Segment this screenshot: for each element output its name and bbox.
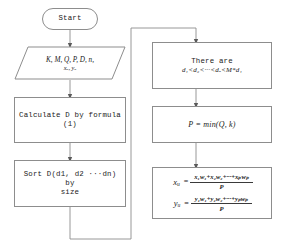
node-inputs-label-line1: K, M, Q, P, D, n, bbox=[46, 56, 94, 64]
node-inputs[interactable]: K, M, Q, P, D, n, xᵤ, yᵤ bbox=[14, 46, 126, 80]
node-sort-d-label-line1: Sort D(d1, d2 ···dn) by bbox=[15, 170, 125, 189]
centroid-formula-row-y: yu = y₁w₁+y₂w₂+···+yₚwₚ P bbox=[174, 195, 251, 213]
node-there-are[interactable]: There are d₁<d₂<···<dₒ<M*d₁ bbox=[152, 42, 272, 89]
node-sort-d-label-line2: size bbox=[58, 188, 83, 197]
centroid-formula-row-x: xu = x₁w₁+x₂w₂+···+xₚwₚ P bbox=[173, 173, 251, 191]
node-inputs-text: K, M, Q, P, D, n, xᵤ, yᵤ bbox=[14, 46, 126, 80]
centroid-y-fraction: y₁w₁+y₂w₂+···+yₚwₚ P bbox=[193, 195, 250, 213]
node-p-min-label: P = min(Q, k) bbox=[185, 120, 238, 130]
centroid-x-equals: = bbox=[184, 177, 189, 187]
centroid-x-fraction: x₁w₁+x₂w₂+···+xₚwₚ P bbox=[192, 173, 251, 191]
centroid-x-numerator: x₁w₁+x₂w₂+···+xₚwₚ bbox=[192, 173, 251, 182]
centroid-x-lhs: xu bbox=[173, 177, 180, 188]
node-calculate-d-label-line2: (1) bbox=[60, 120, 80, 129]
node-calculate-d-label-line1: Calculate D by formula bbox=[16, 111, 124, 120]
centroid-x-denominator: P bbox=[190, 182, 253, 192]
node-inputs-label-line2: xᵤ, yᵤ bbox=[64, 64, 77, 71]
node-centroid[interactable]: xu = x₁w₁+x₂w₂+···+xₚwₚ P yu = y₁w₁+y₂w₂… bbox=[152, 167, 272, 219]
node-sort-d[interactable]: Sort D(d1, d2 ···dn) by size bbox=[14, 160, 126, 207]
node-there-are-label-line2: d₁<d₂<···<dₒ<M*d₁ bbox=[179, 66, 245, 75]
centroid-y-denominator: P bbox=[191, 203, 252, 213]
centroid-formula-stack: xu = x₁w₁+x₂w₂+···+xₚwₚ P yu = y₁w₁+y₂w₂… bbox=[153, 168, 271, 218]
node-p-min[interactable]: P = min(Q, k) bbox=[152, 106, 272, 143]
centroid-y-equals: = bbox=[184, 199, 189, 209]
centroid-y-subscript: u bbox=[178, 203, 181, 209]
flowchart-canvas: Start K, M, Q, P, D, n, xᵤ, yᵤ Calculate… bbox=[0, 0, 286, 251]
centroid-x-subscript: u bbox=[177, 181, 180, 187]
centroid-y-lhs: yu bbox=[174, 198, 181, 209]
node-there-are-label-line1: There are bbox=[188, 57, 236, 66]
centroid-y-numerator: y₁w₁+y₂w₂+···+yₚwₚ bbox=[193, 195, 250, 204]
node-start[interactable]: Start bbox=[42, 8, 98, 30]
node-start-label: Start bbox=[55, 14, 84, 23]
node-calculate-d[interactable]: Calculate D by formula (1) bbox=[14, 97, 126, 143]
